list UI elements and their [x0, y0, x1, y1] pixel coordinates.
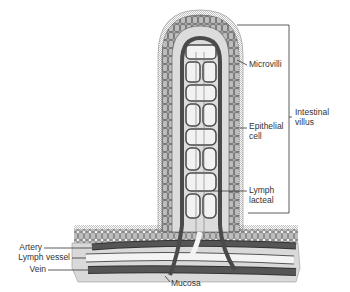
label-microvilli: Microvilli	[249, 60, 282, 70]
villus-body	[158, 10, 243, 240]
label-lymph-line2: lacteal	[249, 196, 274, 206]
villus-illustration	[0, 0, 350, 292]
label-lymph-vessel: Lymph vessel	[18, 253, 70, 263]
label-mucosa: Mucosa	[171, 279, 201, 289]
label-epithelial-cell: Epithelial cell	[249, 122, 284, 141]
label-vein: Vein	[29, 265, 46, 275]
label-lymph-lacteal: Lymph lacteal	[249, 186, 274, 205]
label-villus-line2: villus	[295, 118, 329, 128]
label-intestinal-villus: Intestinal villus	[295, 108, 329, 127]
label-epithelial-line2: cell	[249, 132, 284, 142]
